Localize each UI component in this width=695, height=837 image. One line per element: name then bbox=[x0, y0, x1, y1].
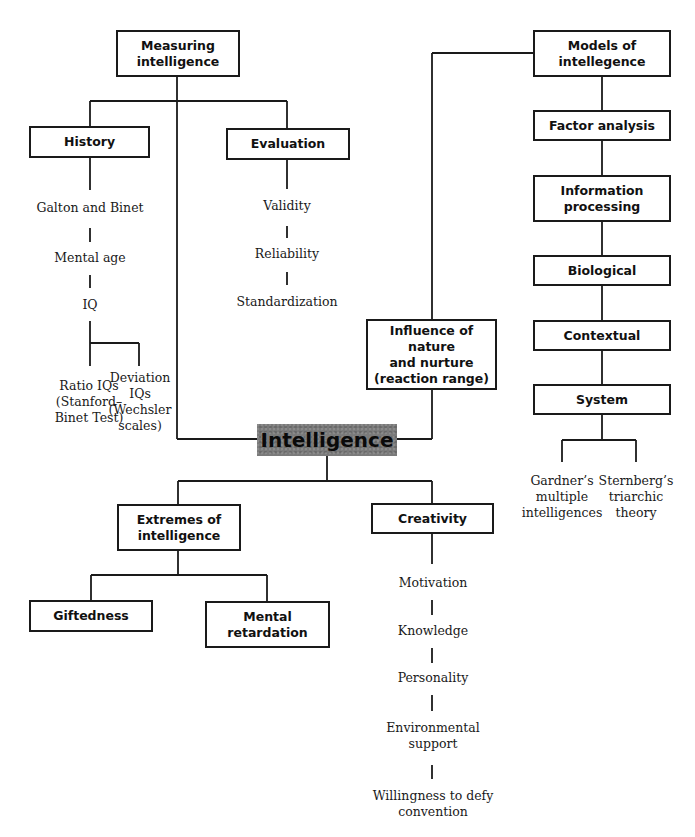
history-item-mental-age: Mental age bbox=[54, 250, 126, 266]
node-history[interactable]: History bbox=[29, 126, 150, 158]
creativity-item-personality: Personality bbox=[398, 670, 469, 686]
evaluation-item-standardization: Standardization bbox=[236, 294, 337, 310]
history-item-galton-binet: Galton and Binet bbox=[36, 200, 143, 216]
node-intelligence-central[interactable]: Intelligence bbox=[257, 424, 397, 456]
node-extremes-of-intelligence[interactable]: Extremes of intelligence bbox=[117, 504, 241, 551]
node-evaluation[interactable]: Evaluation bbox=[226, 128, 350, 160]
node-mental-retardation[interactable]: Mental retardation bbox=[205, 601, 330, 648]
creativity-item-knowledge: Knowledge bbox=[398, 623, 468, 639]
system-sternberg: Sternberg’s triarchic theory bbox=[599, 473, 674, 521]
evaluation-item-validity: Validity bbox=[263, 198, 310, 214]
node-contextual[interactable]: Contextual bbox=[533, 320, 671, 351]
node-giftedness[interactable]: Giftedness bbox=[29, 600, 153, 632]
node-factor-analysis[interactable]: Factor analysis bbox=[533, 110, 671, 141]
node-information-processing[interactable]: Information processing bbox=[533, 175, 671, 222]
node-biological[interactable]: Biological bbox=[533, 255, 671, 286]
creativity-item-environmental-support: Environmental support bbox=[386, 720, 480, 752]
system-gardner: Gardner’s multiple intelligences bbox=[522, 473, 603, 521]
node-measuring-intelligence[interactable]: Measuring intelligence bbox=[116, 30, 240, 77]
node-creativity[interactable]: Creativity bbox=[371, 503, 494, 534]
node-models-of-intelligence[interactable]: Models of intellegence bbox=[533, 30, 671, 77]
intelligence-concept-map: Measuring intelligence History Evaluatio… bbox=[0, 0, 695, 837]
history-item-iq: IQ bbox=[82, 297, 97, 313]
node-nature-nurture[interactable]: Influence of nature and nurture (reactio… bbox=[366, 319, 497, 390]
evaluation-item-reliability: Reliability bbox=[255, 246, 319, 262]
creativity-item-willingness: Willingness to defy convention bbox=[373, 788, 494, 820]
iq-deviation: Deviation IQs (Wechsler scales) bbox=[109, 370, 172, 434]
node-system[interactable]: System bbox=[533, 384, 671, 415]
creativity-item-motivation: Motivation bbox=[399, 575, 467, 591]
